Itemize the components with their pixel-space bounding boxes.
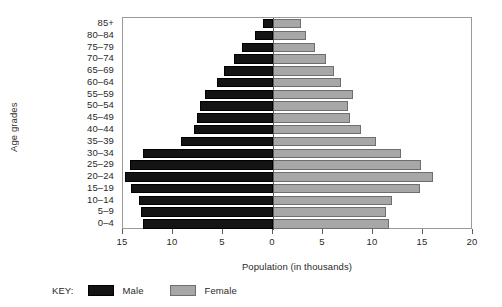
zero-axis-line — [273, 18, 274, 230]
category-label: 85+ — [98, 17, 114, 29]
bar-row — [123, 148, 473, 160]
bar-male — [200, 101, 273, 110]
bar-female — [273, 137, 376, 146]
plot-frame — [122, 17, 472, 229]
x-axis-tick — [322, 229, 323, 234]
bar-female — [273, 54, 326, 63]
x-axis-tick-label: 0 — [257, 236, 287, 247]
bar-female — [273, 19, 301, 28]
bar-row — [123, 112, 473, 124]
legend-title: KEY: — [52, 285, 74, 296]
bar-row — [123, 124, 473, 136]
bar-female — [273, 78, 341, 87]
bar-male — [234, 54, 273, 63]
bar-row — [123, 159, 473, 171]
category-label: 40–44 — [87, 123, 114, 135]
category-label: 60–64 — [87, 76, 114, 88]
category-label: 65–69 — [87, 64, 114, 76]
x-axis-tick — [422, 229, 423, 234]
bar-male — [217, 78, 273, 87]
category-label: 10–14 — [87, 194, 114, 206]
bar-row — [123, 30, 473, 42]
legend-swatch-male — [88, 285, 114, 296]
category-label: 15–19 — [87, 182, 114, 194]
bar-female — [273, 149, 401, 158]
bar-female — [273, 160, 421, 169]
bar-row — [123, 136, 473, 148]
x-axis-tick — [272, 229, 273, 234]
x-axis-tick — [372, 229, 373, 234]
bar-row — [123, 77, 473, 89]
x-axis: 1510505101520 — [122, 229, 472, 255]
plot-area — [123, 18, 473, 230]
legend-label: Male — [123, 285, 144, 296]
category-label: 35–39 — [87, 135, 114, 147]
x-axis-tick-label: 10 — [357, 236, 387, 247]
bar-row — [123, 206, 473, 218]
bar-male — [181, 137, 273, 146]
x-axis-tick — [222, 229, 223, 234]
bar-female — [273, 219, 389, 228]
bar-row — [123, 42, 473, 54]
population-pyramid-chart: Age grades 85+80–8475–7970–7465–6960–645… — [0, 0, 502, 307]
x-axis-tick-label: 10 — [157, 236, 187, 247]
category-label: 25–29 — [87, 158, 114, 170]
category-label: 45–49 — [87, 111, 114, 123]
x-axis-tick — [172, 229, 173, 234]
category-label: 75–79 — [87, 41, 114, 53]
bar-male — [197, 113, 273, 122]
x-axis-tick-label: 20 — [457, 236, 487, 247]
x-axis-tick-label: 15 — [107, 236, 137, 247]
x-axis-tick — [472, 229, 473, 234]
category-label: 55–59 — [87, 88, 114, 100]
bar-female — [273, 31, 306, 40]
legend-entry: Female — [170, 285, 237, 296]
category-axis-labels: 85+80–8475–7970–7465–6960–6455–5950–5445… — [44, 17, 118, 229]
bar-female — [273, 90, 353, 99]
bar-male — [141, 207, 273, 216]
legend: KEY: MaleFemale — [52, 283, 263, 297]
bar-female — [273, 125, 361, 134]
bar-female — [273, 43, 315, 52]
bar-male — [131, 184, 273, 193]
bar-male — [139, 196, 273, 205]
category-label: 80–84 — [87, 29, 114, 41]
bar-row — [123, 18, 473, 30]
bar-row — [123, 100, 473, 112]
bar-row — [123, 171, 473, 183]
category-label: 50–54 — [87, 99, 114, 111]
x-axis-tick-label: 5 — [307, 236, 337, 247]
bar-male — [143, 219, 273, 228]
bar-female — [273, 66, 334, 75]
bar-female — [273, 172, 433, 181]
legend-label: Female — [205, 285, 237, 296]
bar-row — [123, 195, 473, 207]
bar-row — [123, 53, 473, 65]
bar-row — [123, 89, 473, 101]
x-axis-tick-label: 15 — [407, 236, 437, 247]
bar-row — [123, 183, 473, 195]
bar-male — [242, 43, 273, 52]
bar-female — [273, 196, 392, 205]
bar-female — [273, 101, 348, 110]
bar-male — [194, 125, 273, 134]
category-label: 70–74 — [87, 52, 114, 64]
bar-male — [125, 172, 273, 181]
legend-swatch-female — [170, 285, 196, 296]
bar-female — [273, 113, 350, 122]
bar-male — [263, 19, 273, 28]
bar-male — [205, 90, 273, 99]
bar-female — [273, 207, 386, 216]
bar-male — [143, 149, 273, 158]
category-label: 20–24 — [87, 170, 114, 182]
bar-male — [130, 160, 273, 169]
category-label: 5–9 — [98, 205, 114, 217]
x-axis-tick-label: 5 — [207, 236, 237, 247]
x-axis-title: Population (in thousands) — [122, 261, 472, 272]
x-axis-tick — [122, 229, 123, 234]
legend-entry: Male — [88, 285, 144, 296]
bar-male — [224, 66, 273, 75]
bar-male — [255, 31, 273, 40]
category-label: 30–34 — [87, 147, 114, 159]
bar-female — [273, 184, 420, 193]
